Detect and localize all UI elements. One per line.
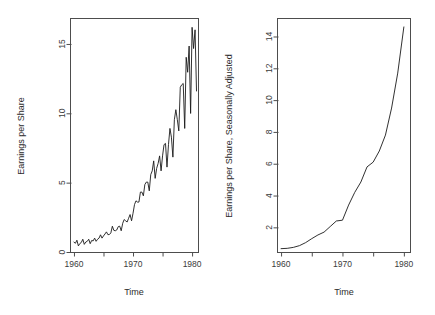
- x-tick-label: 1960: [272, 259, 291, 269]
- left-y-axis-title: Earnings per Share: [16, 97, 26, 175]
- right-x-tick-labels: 196019701980: [272, 259, 414, 269]
- left-x-tick-marks: [74, 253, 192, 257]
- left-x-tick-labels: 196019701980: [64, 259, 201, 269]
- right-x-tick-marks: [282, 253, 405, 257]
- y-tick-label: 2: [264, 225, 274, 230]
- left-plot-frame: [71, 19, 199, 253]
- x-tick-label: 1970: [124, 259, 143, 269]
- left-y-tick-labels: 051015: [57, 39, 67, 254]
- y-tick-label: 5: [57, 180, 67, 185]
- x-tick-label: 1960: [64, 259, 83, 269]
- y-tick-label: 10: [264, 95, 274, 105]
- y-tick-label: 10: [57, 108, 67, 118]
- chart-panel-right: 196019701980 2468101214 Time Earnings pe…: [218, 0, 435, 315]
- chart-panel-left: 196019701980 051015 Time Earnings per Sh…: [0, 0, 218, 315]
- right-y-tick-labels: 2468101214: [264, 32, 274, 230]
- y-tick-label: 4: [264, 193, 274, 198]
- right-x-axis-title: Time: [334, 287, 354, 297]
- y-tick-label: 15: [57, 39, 67, 49]
- left-plot-svg: 196019701980 051015 Time Earnings per Sh…: [0, 0, 218, 315]
- y-tick-label: 12: [264, 63, 274, 73]
- right-y-axis-title: Earnings per Share, Seasonally Adjusted: [224, 54, 234, 218]
- right-data-series: [281, 27, 404, 249]
- y-tick-label: 6: [264, 161, 274, 166]
- right-plot-svg: 196019701980 2468101214 Time Earnings pe…: [218, 0, 435, 315]
- figure-canvas: 196019701980 051015 Time Earnings per Sh…: [0, 0, 435, 315]
- y-tick-label: 14: [264, 32, 274, 42]
- left-data-series: [74, 27, 197, 246]
- x-tick-label: 1970: [333, 259, 352, 269]
- left-x-axis-title: Time: [124, 287, 144, 297]
- x-tick-label: 1980: [183, 259, 202, 269]
- y-tick-label: 0: [57, 249, 67, 254]
- y-tick-label: 8: [264, 129, 274, 134]
- x-tick-label: 1980: [394, 259, 413, 269]
